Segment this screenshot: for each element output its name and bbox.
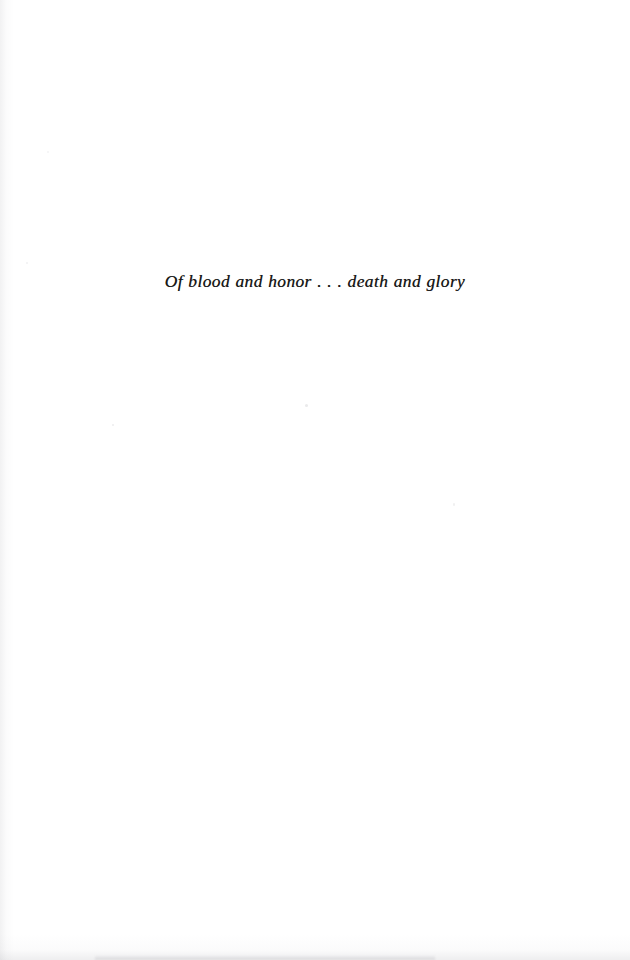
scan-speck bbox=[112, 424, 114, 426]
epigraph-block: Of blood and honor . . . death and glory bbox=[0, 270, 630, 292]
scan-edge-bottom-shadow bbox=[0, 934, 630, 960]
scan-speck bbox=[47, 151, 49, 153]
scan-speck bbox=[305, 404, 308, 407]
book-page: Of blood and honor . . . death and glory bbox=[0, 0, 630, 960]
epigraph-text: Of blood and honor . . . death and glory bbox=[165, 270, 465, 292]
scan-edge-left-shadow bbox=[0, 0, 14, 960]
scan-speck bbox=[26, 262, 28, 264]
scan-speck bbox=[453, 503, 455, 506]
